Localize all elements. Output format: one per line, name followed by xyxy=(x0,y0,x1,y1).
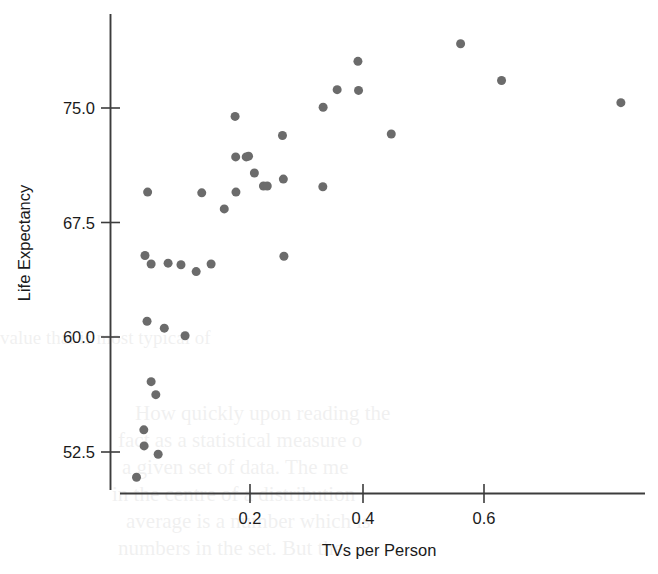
data-point xyxy=(140,251,149,260)
data-point xyxy=(279,252,288,261)
data-point xyxy=(147,259,156,268)
data-point xyxy=(181,331,190,340)
data-point xyxy=(160,324,169,333)
data-point xyxy=(143,188,152,197)
data-point xyxy=(154,450,163,459)
data-point xyxy=(231,152,240,161)
y-axis: 75.0 67.5 60.0 52.5 Life Expectancy xyxy=(15,14,120,490)
data-point xyxy=(497,76,506,85)
data-point xyxy=(353,57,362,66)
data-point xyxy=(164,259,173,268)
data-point xyxy=(207,259,216,268)
bleed-line-0: How quickly upon reading the xyxy=(135,401,390,425)
data-point xyxy=(140,441,149,450)
data-point xyxy=(250,168,259,177)
data-point xyxy=(279,175,288,184)
data-point xyxy=(220,204,229,213)
data-point xyxy=(143,317,152,326)
data-point xyxy=(231,188,240,197)
x-tick-label-0-4: 0.4 xyxy=(352,509,375,527)
data-point xyxy=(197,188,206,197)
y-tick-label-67-5: 67.5 xyxy=(63,214,95,232)
data-point xyxy=(231,112,240,121)
bleed-line-2: a given set of data. The me xyxy=(122,455,348,479)
data-point xyxy=(263,181,272,190)
data-point xyxy=(192,267,201,276)
y-axis-title: Life Expectancy xyxy=(15,184,33,301)
data-point xyxy=(244,152,253,161)
data-point xyxy=(147,377,156,386)
x-axis-title: TVs per Person xyxy=(322,541,437,559)
data-point xyxy=(387,129,396,138)
data-point xyxy=(318,182,327,191)
data-point xyxy=(456,39,465,48)
bleed-line-1: fact as a statistical measure o xyxy=(118,428,362,452)
y-tick-label-60: 60.0 xyxy=(63,328,95,346)
data-point xyxy=(616,98,625,107)
y-tick-label-75: 75.0 xyxy=(63,99,95,117)
data-point xyxy=(139,425,148,434)
data-point xyxy=(354,86,363,95)
data-point xyxy=(176,260,185,269)
scatter-plot-figure: How quickly upon reading the fact as a s… xyxy=(0,0,658,574)
data-point xyxy=(278,131,287,140)
data-point xyxy=(151,390,160,399)
data-point xyxy=(333,85,342,94)
y-tick-label-52-5: 52.5 xyxy=(63,443,95,461)
data-point xyxy=(319,103,328,112)
page-bleed-through: How quickly upon reading the fact as a s… xyxy=(0,327,390,560)
data-point xyxy=(132,473,141,482)
bleed-line-5: numbers in the set. But the xyxy=(118,536,343,560)
chart-canvas: How quickly upon reading the fact as a s… xyxy=(0,0,658,574)
x-tick-label-0-2: 0.2 xyxy=(239,509,262,527)
x-tick-label-0-6: 0.6 xyxy=(473,509,496,527)
